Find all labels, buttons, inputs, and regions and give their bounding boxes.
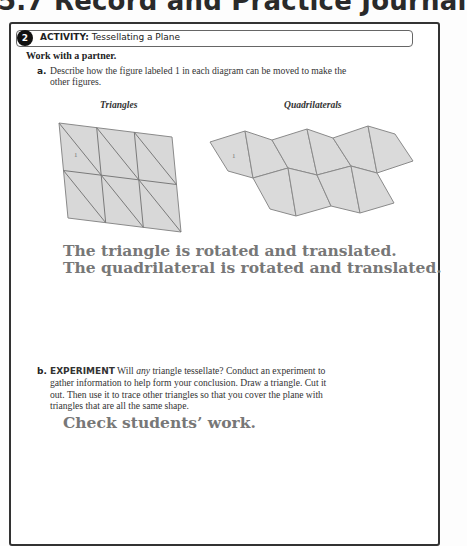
part-b-text-pre: Will <box>115 365 136 376</box>
quadrilaterals-tessellation-diagram <box>0 0 444 260</box>
quadrilateral-figure-label: 1 <box>232 152 236 160</box>
experiment-keyword: EXPERIMENT <box>50 366 115 376</box>
part-b-letter: b. <box>37 366 47 376</box>
part-b-question: EXPERIMENT Will any triangle tessellate?… <box>50 365 340 411</box>
part-b-answer: Check students’ work. <box>63 413 256 432</box>
part-b-emphasis: any <box>136 365 150 376</box>
part-a-answer-line2: The quadrilateral is rotated and transla… <box>63 258 442 277</box>
